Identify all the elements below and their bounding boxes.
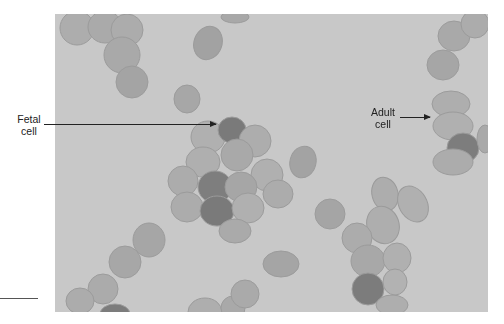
adult-label-line2: cell (368, 118, 398, 130)
micrograph-photo (55, 14, 488, 312)
figure-rule-line (0, 298, 38, 299)
adult-cell-label: Adult cell (368, 106, 398, 130)
fetal-label-line2: cell (14, 125, 44, 137)
adult-label-line1: Adult (368, 106, 398, 118)
fetal-label-line1: Fetal (14, 113, 44, 125)
fetal-cell-arrow-icon (44, 124, 216, 125)
fetal-cell-label: Fetal cell (14, 113, 44, 137)
cells-layer (55, 14, 488, 312)
adult-cell-arrow-icon (400, 117, 430, 118)
